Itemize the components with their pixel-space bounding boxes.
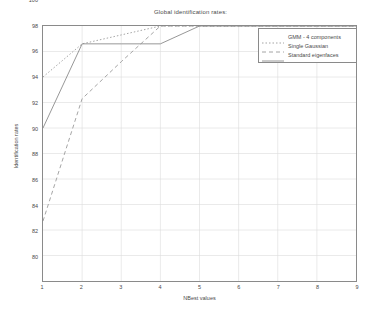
legend-label: GMM - 4 components [288, 33, 341, 41]
legend-label: Single Gaussian [288, 42, 328, 50]
y-tick-label: 100 [10, 0, 38, 3]
y-tick-label: 98 [10, 23, 38, 29]
legend-item-1[interactable]: Single Gaussian [261, 41, 353, 50]
x-axis-label: NBest values [42, 295, 357, 301]
legend-item-0[interactable]: GMM - 4 components [261, 32, 353, 41]
y-tick-label: 94 [10, 74, 38, 80]
x-tick-label: 2 [80, 284, 83, 290]
legend-line-sample-icon [261, 33, 285, 41]
x-tick-label: 5 [198, 284, 201, 290]
y-tick-label: 82 [10, 228, 38, 234]
y-axis-label: Identification rates [13, 86, 19, 206]
y-tick-label: 96 [10, 48, 38, 54]
x-tick-label: 3 [119, 284, 122, 290]
x-tick-label: 7 [277, 284, 280, 290]
legend-line-sample-icon [261, 51, 285, 59]
legend-label: Standard eigenfaces [288, 51, 338, 59]
x-tick-label: 4 [159, 284, 162, 290]
x-tick-label: 1 [40, 284, 43, 290]
y-tick-label: 80 [10, 254, 38, 260]
chart-title: Global identification rates: [0, 9, 381, 15]
x-tick-label: 8 [316, 284, 319, 290]
data-series-lines [43, 26, 356, 281]
x-tick-label: 9 [355, 284, 358, 290]
legend-line-sample-icon [261, 42, 285, 50]
plot-area [42, 25, 357, 282]
chart-legend: GMM - 4 componentsSingle GaussianStandar… [258, 28, 357, 63]
x-tick-label: 6 [237, 284, 240, 290]
figure-canvas: Global identification rates: 80828486889… [0, 0, 381, 315]
legend-item-2[interactable]: Standard eigenfaces [261, 50, 353, 59]
